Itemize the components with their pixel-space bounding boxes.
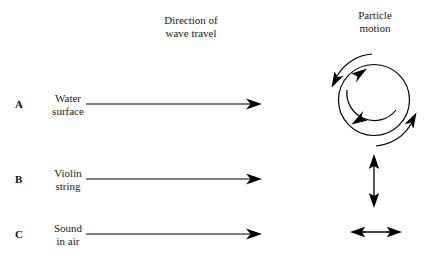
particle-motion-horizontal-row-c xyxy=(348,218,404,246)
outer-arc-arrowhead-down-left-icon xyxy=(332,72,344,88)
column-header-particle-motion: Particle motion xyxy=(330,9,420,34)
row-label-sound-in-air: Sound in air xyxy=(42,222,94,247)
arrow-head-left-icon xyxy=(350,227,365,237)
arrow-head-up-icon xyxy=(369,154,379,169)
row-letter-b: B xyxy=(15,174,29,185)
inner-arc-icon xyxy=(347,90,396,121)
outer-arc-arrowhead-up-right-icon xyxy=(405,113,417,129)
wave-types-diagram: Direction of wave travel Particle motion… xyxy=(0,0,439,256)
outer-arc-upper-left-icon xyxy=(337,54,372,76)
arrow-head-right-icon xyxy=(246,99,262,110)
row-letter-a: A xyxy=(15,99,29,110)
row-label-water-surface: Water surface xyxy=(42,92,94,117)
outer-arc-lower-right-icon xyxy=(376,124,411,146)
travel-arrow-row-c xyxy=(86,226,268,242)
travel-arrow-row-a xyxy=(86,96,268,112)
travel-arrow-row-b xyxy=(86,171,268,187)
arrow-head-right-icon xyxy=(246,229,262,240)
arrow-head-right-icon xyxy=(246,174,262,185)
column-header-direction-of-wave-travel: Direction of wave travel xyxy=(128,14,254,39)
inner-arc-arrowhead-lower-icon xyxy=(352,111,368,125)
particle-motion-circular-row-a xyxy=(326,52,426,148)
row-letter-c: C xyxy=(15,229,29,240)
arrow-head-down-icon xyxy=(369,193,379,208)
arrow-head-right-icon xyxy=(387,227,402,237)
row-label-violin-string: Violin string xyxy=(42,167,94,192)
inner-arc-arrowhead-upper-icon xyxy=(352,69,368,83)
particle-motion-vertical-row-b xyxy=(354,152,394,210)
circle-outline-icon xyxy=(339,65,410,136)
